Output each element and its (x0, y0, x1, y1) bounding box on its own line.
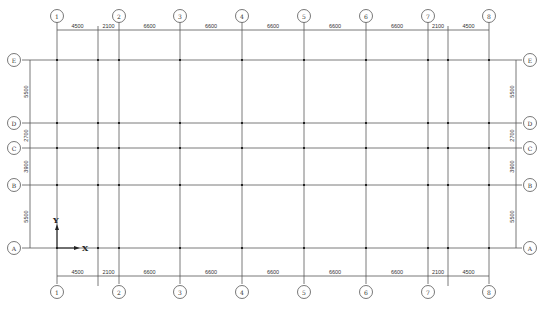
grid-node (118, 184, 120, 186)
grid-node (56, 147, 58, 149)
grid-node (447, 122, 449, 124)
top-dimension-value: 6600 (205, 23, 217, 29)
right-dimension-value: 5500 (509, 210, 515, 222)
top-dimension-value: 2100 (102, 23, 114, 29)
grid-lines (22, 22, 522, 286)
structural-grid-plan: 4500450021002100660066006600660066006600… (0, 0, 544, 309)
grid-intersection-nodes (56, 59, 490, 249)
grid-node (447, 184, 449, 186)
column-bubble-label: 4 (240, 13, 244, 20)
row-bubble-label: A (11, 245, 17, 252)
x-axis-label: X (82, 243, 89, 253)
grid-node (303, 247, 305, 249)
column-bubble-label: 3 (178, 289, 182, 296)
grid-node (241, 184, 243, 186)
grid-node (179, 147, 181, 149)
grid-node (97, 184, 99, 186)
grid-node (488, 147, 490, 149)
grid-node (488, 59, 490, 61)
column-bubble-label: 2 (117, 13, 121, 20)
grid-node (365, 147, 367, 149)
grid-node (241, 247, 243, 249)
grid-node (97, 147, 99, 149)
row-bubble-label: C (12, 145, 17, 152)
grid-node (97, 59, 99, 61)
row-bubble-label: D (528, 120, 533, 127)
bottom-dimension-value: 6600 (205, 269, 217, 275)
right-dimension-value: 5500 (509, 85, 515, 97)
grid-node (56, 122, 58, 124)
column-bubble-label: 1 (55, 289, 59, 296)
left-dimension-value: 3900 (23, 160, 29, 172)
grid-node (427, 122, 429, 124)
grid-node (56, 59, 58, 61)
grid-axis-bubbles: 1122334455667788EEDDCCBBAA (8, 10, 537, 299)
column-bubble-label: 3 (178, 13, 182, 20)
y-axis-label: Y (52, 215, 59, 225)
grid-node (447, 247, 449, 249)
row-bubble-label: C (528, 145, 533, 152)
grid-node (179, 247, 181, 249)
grid-node (427, 247, 429, 249)
grid-node (118, 122, 120, 124)
x-arrowhead-icon (74, 246, 80, 250)
grid-node (303, 184, 305, 186)
grid-node (488, 247, 490, 249)
bottom-dimension-value: 4500 (462, 269, 474, 275)
column-bubble-label: 5 (302, 13, 306, 20)
left-dimension-value: 5500 (23, 85, 29, 97)
grid-node (427, 147, 429, 149)
row-bubble-label: E (528, 57, 532, 64)
top-dimension-value: 6600 (391, 23, 403, 29)
bottom-dimension-value: 6600 (267, 269, 279, 275)
grid-node (365, 122, 367, 124)
grid-node (241, 147, 243, 149)
column-bubble-label: 8 (487, 13, 491, 20)
bottom-dimension-value: 6600 (391, 269, 403, 275)
column-bubble-label: 4 (240, 289, 244, 296)
dimension-lines: 4500450021002100660066006600660066006600… (23, 23, 516, 276)
row-bubble-label: B (12, 182, 17, 189)
column-bubble-label: 6 (364, 13, 368, 20)
right-dimension-value: 3900 (509, 160, 515, 172)
grid-node (97, 247, 99, 249)
grid-node (118, 147, 120, 149)
grid-node (303, 122, 305, 124)
column-bubble-label: 8 (487, 289, 491, 296)
grid-node (365, 247, 367, 249)
column-bubble-label: 6 (364, 289, 368, 296)
top-dimension-value: 6600 (143, 23, 155, 29)
right-dimension-value: 2700 (509, 129, 515, 141)
bottom-dimension-value: 6600 (329, 269, 341, 275)
grid-node (56, 184, 58, 186)
bottom-dimension-value: 6600 (143, 269, 155, 275)
grid-node (97, 122, 99, 124)
grid-node (118, 247, 120, 249)
grid-node (241, 59, 243, 61)
bottom-dimension-value: 4500 (71, 269, 83, 275)
top-dimension-value: 2100 (432, 23, 444, 29)
left-dimension-value: 5500 (23, 210, 29, 222)
top-dimension-value: 4500 (71, 23, 83, 29)
grid-node (365, 184, 367, 186)
grid-node (447, 59, 449, 61)
column-bubble-label: 7 (426, 13, 430, 20)
grid-node (365, 59, 367, 61)
grid-node (427, 184, 429, 186)
grid-node (303, 59, 305, 61)
column-bubble-label: 5 (302, 289, 306, 296)
top-dimension-value: 6600 (329, 23, 341, 29)
row-bubble-label: A (527, 245, 533, 252)
bottom-dimension-value: 2100 (102, 269, 114, 275)
left-dimension-value: 2700 (23, 129, 29, 141)
grid-node (488, 184, 490, 186)
top-dimension-value: 4500 (462, 23, 474, 29)
grid-node (118, 59, 120, 61)
grid-node (179, 184, 181, 186)
bottom-dimension-value: 2100 (432, 269, 444, 275)
column-bubble-label: 1 (55, 13, 59, 20)
grid-node (488, 122, 490, 124)
row-bubble-label: E (12, 57, 16, 64)
grid-node (179, 122, 181, 124)
grid-node (241, 122, 243, 124)
